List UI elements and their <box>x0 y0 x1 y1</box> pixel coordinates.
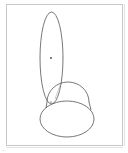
anchor-point[interactable] <box>50 101 51 102</box>
shapes-layer <box>0 0 128 153</box>
drawing-canvas[interactable]: ... <box>0 0 128 153</box>
corner-label: ... <box>2 147 5 152</box>
bottom-ellipse[interactable] <box>40 101 94 137</box>
dome-arc[interactable] <box>47 82 89 102</box>
center-point[interactable] <box>50 57 52 59</box>
